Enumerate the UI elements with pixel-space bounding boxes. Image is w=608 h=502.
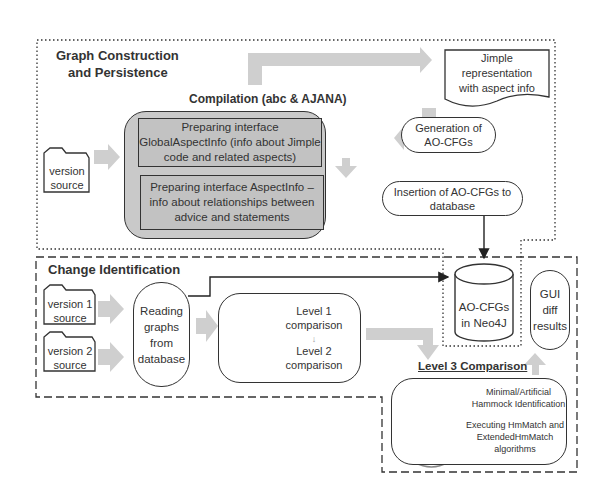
gui-diff-results[interactable]: GUI diff results: [530, 270, 570, 350]
label: Hammock Identification: [472, 398, 566, 410]
label: Level 1: [296, 304, 331, 318]
version-source[interactable]: version source: [45, 164, 89, 192]
label: ExtendedHmMatch: [477, 431, 554, 443]
label: Jimple: [481, 51, 513, 66]
label: version 1: [48, 297, 93, 311]
label: AO-CFGs: [459, 299, 509, 315]
title-line: and Persistence: [56, 64, 179, 81]
label: database: [430, 199, 475, 213]
version1-source[interactable]: version 1 source: [45, 297, 95, 324]
label: source: [50, 178, 83, 192]
label: version 2: [48, 344, 93, 358]
label: comparison: [286, 358, 343, 372]
label: graphs: [144, 319, 179, 335]
generation-node[interactable]: Generation of AO-CFGs: [401, 117, 496, 153]
label: Reading: [140, 303, 183, 319]
label: in Neo4J: [461, 315, 506, 331]
level3-title: Level 3 Comparison: [418, 360, 527, 372]
label: GUI: [540, 286, 560, 302]
label: Insertion of AO-CFGs to: [394, 185, 511, 199]
label: Executing HmMatch and: [466, 419, 564, 431]
label: database: [138, 351, 185, 367]
label: version: [49, 164, 84, 178]
aspect-info-step[interactable]: Preparing interface AspectInfo – info ab…: [140, 175, 324, 230]
version2-source[interactable]: version 2 source: [45, 344, 95, 371]
label: Level 2: [296, 344, 331, 358]
jimple-representation[interactable]: Jimple representation with aspect info: [445, 51, 549, 96]
label: from: [150, 335, 173, 351]
label: Minimal/Artificial: [486, 386, 551, 398]
compilation-title: Compilation (abc & AJANA): [189, 92, 347, 106]
label: algorithms: [494, 443, 536, 455]
database-node[interactable]: AO-CFGs in Neo4J: [455, 298, 513, 332]
label: AO-CFGs: [424, 135, 472, 149]
hammock-identification-step: Minimal/Artificial Hammock Identificatio…: [470, 385, 567, 411]
label: Generation of: [415, 121, 482, 135]
label: comparison: [286, 318, 343, 332]
label: with aspect info: [459, 81, 535, 96]
label: source: [53, 311, 86, 325]
change-identification-title: Change Identification: [48, 261, 180, 278]
hmmatch-step: Executing HmMatch and ExtendedHmMatch al…: [462, 418, 568, 456]
label: source: [53, 358, 86, 372]
label: diff: [542, 302, 557, 318]
title-line: Graph Construction: [56, 47, 179, 64]
global-aspect-info-step[interactable]: Preparing interface GlobalAspectInfo (in…: [138, 118, 322, 167]
graph-construction-title: Graph Construction and Persistence: [56, 47, 179, 81]
insertion-node[interactable]: Insertion of AO-CFGs to database: [382, 181, 523, 216]
down-arrow-icon: ↓: [312, 332, 317, 344]
reading-graphs-node[interactable]: Reading graphs from database: [133, 282, 190, 387]
level12-labels: Level 1 comparison ↓ Level 2 comparison: [278, 298, 350, 378]
label: representation: [462, 66, 532, 81]
label: results: [533, 318, 567, 334]
